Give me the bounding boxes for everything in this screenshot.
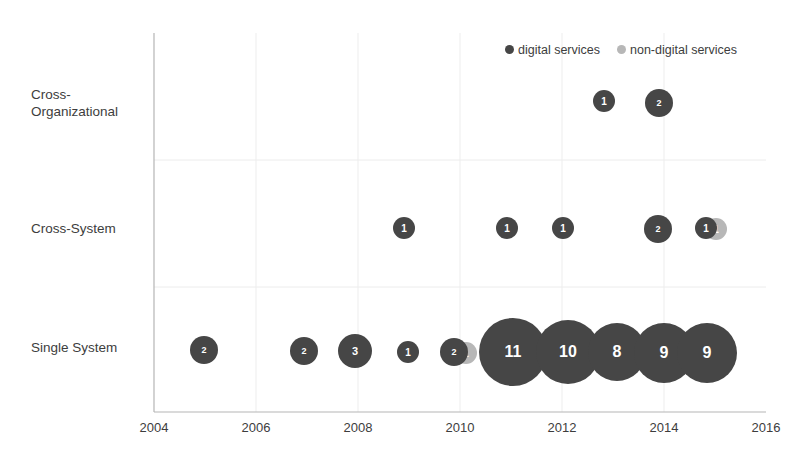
bubble-value-label: 1 [401, 223, 407, 234]
bubble-digital-1[interactable]: 1 [393, 217, 415, 239]
legend-label-digital: digital services [518, 43, 600, 57]
bubble-value-label: 1 [703, 223, 709, 234]
bubble-chart: Cross- Organizational Cross-System Singl… [0, 0, 800, 468]
y-axis-label-single-system: Single System [31, 339, 146, 356]
bubble-value-label: 1 [504, 223, 510, 234]
legend-label-non-digital: non-digital services [630, 43, 737, 57]
x-axis-tick-2006: 2006 [234, 420, 278, 435]
bubble-digital-1[interactable]: 1 [496, 217, 518, 239]
bubble-digital-9[interactable]: 9 [677, 323, 737, 383]
x-axis-tick-2008: 2008 [336, 420, 380, 435]
bubble-value-label: 3 [352, 345, 358, 357]
bubble-digital-3[interactable]: 3 [338, 334, 372, 368]
bubble-value-label: 2 [656, 98, 661, 108]
bubble-value-label: 2 [655, 224, 660, 234]
bubble-digital-2[interactable]: 2 [290, 337, 318, 365]
x-axis-tick-2004: 2004 [132, 420, 176, 435]
bubble-value-label: 10 [559, 343, 577, 361]
bubble-digital-2[interactable]: 2 [440, 338, 468, 366]
bubble-digital-1[interactable]: 1 [397, 341, 419, 363]
bubble-digital-1[interactable]: 1 [695, 217, 717, 239]
legend-item-non-digital-services[interactable]: non-digital services [617, 43, 737, 57]
bubble-value-label: 8 [613, 343, 622, 361]
x-axis-tick-2014: 2014 [642, 420, 686, 435]
bubble-value-label: 2 [301, 346, 306, 356]
x-axis-tick-2010: 2010 [438, 420, 482, 435]
bubble-value-label: 11 [505, 343, 522, 361]
bubble-value-label: 9 [660, 344, 669, 362]
bubble-value-label: 1 [601, 96, 607, 107]
bubble-digital-1[interactable]: 1 [552, 217, 574, 239]
bubble-value-label: 9 [703, 344, 712, 362]
y-axis-label-cross-organizational: Cross- Organizational [31, 86, 146, 120]
bubble-digital-2[interactable]: 2 [645, 89, 673, 117]
bubble-digital-2[interactable]: 2 [644, 215, 672, 243]
legend-marker-non-digital-icon [617, 45, 626, 54]
bubble-digital-1[interactable]: 1 [593, 90, 615, 112]
y-axis-label-cross-system: Cross-System [31, 220, 146, 237]
x-axis-tick-2012: 2012 [540, 420, 584, 435]
legend-marker-digital-icon [505, 45, 514, 54]
bubble-digital-2[interactable]: 2 [190, 336, 218, 364]
x-axis-tick-2016: 2016 [744, 420, 788, 435]
bubble-value-label: 1 [405, 347, 411, 358]
bubble-value-label: 2 [451, 347, 456, 357]
bubble-value-label: 1 [560, 223, 566, 234]
bubble-value-label: 2 [201, 345, 206, 355]
legend-item-digital-services[interactable]: digital services [505, 43, 600, 57]
